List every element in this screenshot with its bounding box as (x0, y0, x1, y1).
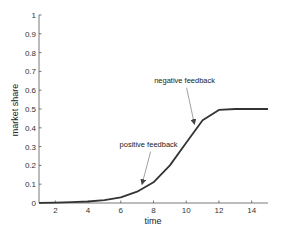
x-tick-label: 12 (214, 206, 223, 215)
annotation-arrow (142, 152, 151, 185)
y-tick-label: 0.5 (25, 105, 37, 114)
series-layer (39, 109, 268, 203)
y-tick-label: 0.2 (25, 161, 37, 170)
y-axis-label: market share (10, 84, 20, 137)
x-tick-label: 8 (151, 206, 156, 215)
y-tick-label: 0.1 (25, 180, 37, 189)
annotation-label: negative feedback (154, 76, 215, 85)
y-tick-label: 0.8 (25, 49, 37, 58)
x-tick-label: 10 (182, 206, 191, 215)
y-axis: 00.10.20.30.40.50.60.70.80.91 (25, 11, 42, 208)
y-tick-label: 0.9 (25, 30, 37, 39)
y-tick-label: 0 (32, 199, 37, 208)
y-tick-label: 0.6 (25, 86, 37, 95)
y-tick-label: 0.7 (25, 67, 37, 76)
x-tick-label: 4 (86, 206, 91, 215)
series-line (39, 109, 268, 203)
x-tick-label: 14 (247, 206, 256, 215)
x-tick-label: 6 (119, 206, 124, 215)
annotation-arrow (187, 88, 195, 124)
x-axis-label: time (144, 216, 161, 226)
y-tick-label: 1 (32, 11, 37, 20)
y-tick-label: 0.4 (25, 124, 37, 133)
annotation-label: positive feedback (120, 140, 178, 149)
line-chart: 00.10.20.30.40.50.60.70.80.91 2468101214… (0, 0, 283, 235)
x-tick-label: 2 (53, 206, 58, 215)
y-tick-label: 0.3 (25, 143, 37, 152)
